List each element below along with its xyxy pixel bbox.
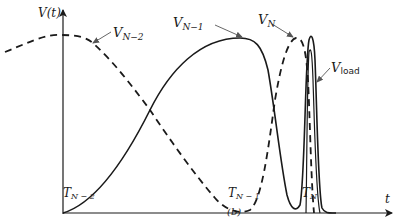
voltage-waveform-diagram: V(t) t VN−2 VN−1 VN Vload TN − 2 TN − 1 … bbox=[0, 0, 395, 220]
label-v-load: Vload bbox=[331, 60, 360, 76]
leader-v-n-minus-1 bbox=[215, 25, 242, 37]
label-v-n: VN bbox=[258, 12, 276, 29]
x-axis-label: t bbox=[385, 192, 390, 206]
label-v-n-minus-1: VN−1 bbox=[173, 15, 204, 32]
tick-t-n-minus-1: TN − 1 bbox=[228, 186, 260, 201]
y-axis-label: V(t) bbox=[38, 6, 61, 20]
curve-v-n-minus-2 bbox=[5, 35, 314, 213]
label-v-n-minus-2: VN−2 bbox=[113, 25, 144, 42]
leader-v-n-minus-2 bbox=[93, 32, 111, 43]
curve-v-n-minus-1 bbox=[63, 36, 336, 213]
leader-v-load bbox=[317, 68, 330, 82]
tick-t-n-minus-2: TN − 2 bbox=[63, 186, 95, 201]
figure-caption: (b) bbox=[227, 206, 241, 217]
tick-t-n: TN bbox=[302, 186, 318, 201]
